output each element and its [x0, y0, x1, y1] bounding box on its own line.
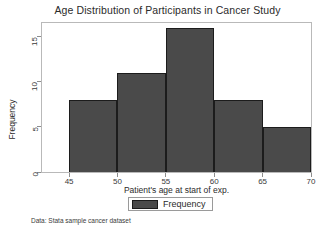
- y-tick-label: 15: [31, 37, 40, 46]
- bar-series: [42, 23, 311, 172]
- bar: [263, 127, 311, 172]
- bar: [214, 100, 262, 172]
- x-axis-title: Patient's age at start of exp.: [41, 185, 312, 195]
- bar: [166, 28, 214, 172]
- y-tick-label: 0: [31, 172, 40, 176]
- footnote-note: Data: Stata sample cancer dataset: [31, 217, 131, 224]
- plot-area: [42, 23, 311, 172]
- legend-swatch-frequency: [132, 200, 158, 209]
- histogram-figure: Age Distribution of Participants in Canc…: [0, 0, 335, 237]
- y-axis: 051015 Frequency: [0, 22, 41, 173]
- y-tick-label: 10: [31, 82, 40, 91]
- y-tick-label: 5: [31, 127, 40, 131]
- bar: [117, 73, 165, 172]
- legend: Frequency: [128, 197, 213, 211]
- legend-label-frequency: Frequency: [163, 199, 206, 209]
- y-axis-title: Frequency: [6, 44, 18, 195]
- bar: [69, 100, 117, 172]
- chart-title: Age Distribution of Participants in Canc…: [0, 4, 335, 16]
